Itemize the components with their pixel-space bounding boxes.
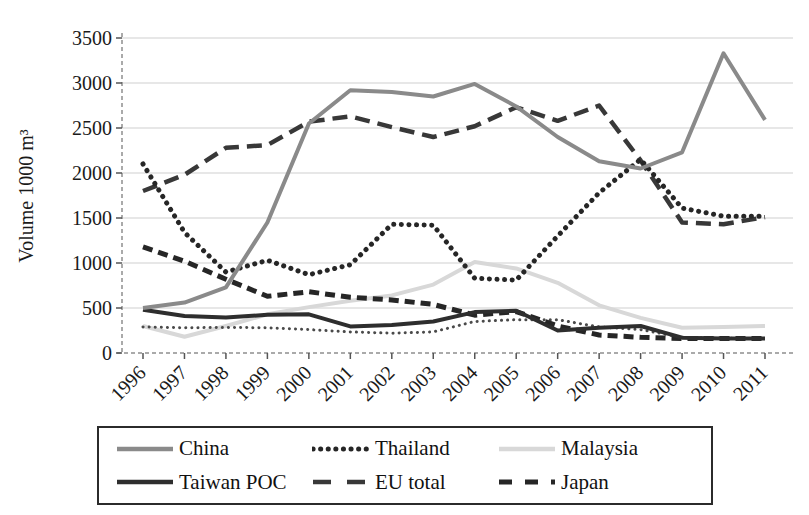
y-tick-label: 1500 <box>72 207 112 229</box>
legend: ChinaThailandMalaysiaTaiwan POCEU totalJ… <box>97 426 713 505</box>
y-tick-label: 3000 <box>72 72 112 94</box>
x-tick-label: 1997 <box>147 361 191 405</box>
legend-item-thailand: Thailand <box>312 436 498 462</box>
x-tick-label: 2008 <box>604 361 648 405</box>
series-line-china <box>143 53 765 308</box>
legend-item-japan: Japan <box>498 469 711 495</box>
legend-key-malaysia-icon <box>498 442 556 456</box>
legend-item-eu-total: EU total <box>312 469 498 495</box>
x-tick-label: 2005 <box>479 361 523 405</box>
legend-label: China <box>179 436 229 461</box>
x-tick-label: 2006 <box>521 361 565 405</box>
legend-label: EU total <box>375 470 446 495</box>
series-line-thailand <box>143 160 765 281</box>
y-tick-label: 500 <box>82 297 112 319</box>
x-tick-label: 2004 <box>438 361 482 405</box>
x-tick-label: 2011 <box>729 361 772 404</box>
legend-key-china-icon <box>116 442 174 456</box>
y-tick-label: 2500 <box>72 117 112 139</box>
legend-key-taiwan-poc-icon <box>116 475 174 489</box>
legend-item-china: China <box>116 436 312 462</box>
legend-item-taiwan-poc: Taiwan POC <box>116 469 312 495</box>
x-tick-label: 2000 <box>272 361 316 405</box>
legend-label: Malaysia <box>561 436 638 461</box>
x-tick-label: 1998 <box>189 361 233 405</box>
x-tick-label: 2009 <box>645 361 689 405</box>
legend-label: Thailand <box>375 436 450 461</box>
legend-key-eu-total-icon <box>312 475 370 489</box>
x-tick-label: 2003 <box>396 361 440 405</box>
x-tick-label: 2007 <box>562 361 606 405</box>
series-line-eu-total <box>143 106 765 225</box>
y-tick-label: 1000 <box>72 252 112 274</box>
legend-label: Taiwan POC <box>179 470 287 495</box>
x-tick-label: 2001 <box>313 361 357 405</box>
x-tick-label: 1999 <box>230 361 274 405</box>
y-tick-label: 0 <box>102 342 112 364</box>
legend-label: Japan <box>561 470 609 495</box>
x-tick-label: 2002 <box>355 361 399 405</box>
y-axis-title: Volume 1000 m³ <box>15 129 37 262</box>
legend-key-japan-icon <box>498 475 556 489</box>
chart-figure: 0500100015002000250030003500199619971998… <box>0 0 809 515</box>
y-tick-label: 2000 <box>72 162 112 184</box>
x-tick-label: 1996 <box>106 361 150 405</box>
y-tick-label: 3500 <box>72 27 112 49</box>
x-tick-label: 2010 <box>687 361 731 405</box>
legend-item-malaysia: Malaysia <box>498 436 711 462</box>
legend-key-thailand-icon <box>312 442 370 456</box>
